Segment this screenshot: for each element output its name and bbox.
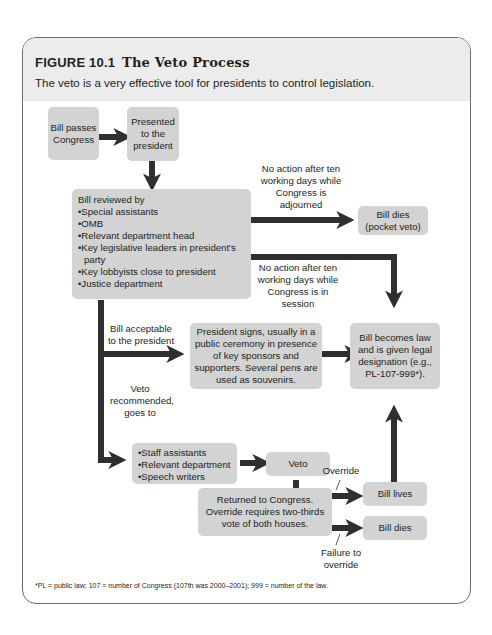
staff-list: Staff assistants Relevant department Spe… — [138, 447, 230, 483]
reviewer-item: Key lobbyists close to president — [78, 266, 236, 278]
node-returned: Returned to Congress. Override requires … — [198, 488, 332, 536]
reviewer-list: Special assistants OMB Relevant departme… — [78, 206, 236, 290]
label-in-session: No action after ten working days while C… — [253, 262, 343, 310]
node-bill-dies: Bill dies — [363, 516, 427, 540]
reviewer-item-continued: party — [78, 254, 236, 266]
node-staff: Staff assistants Relevant department Spe… — [132, 443, 237, 484]
label-override: Override — [316, 465, 366, 477]
reviewer-item: OMB — [78, 218, 236, 230]
label-acceptable: Bill acceptable to the president — [106, 323, 176, 347]
node-becomes-law: Bill becomes law and is given legal desi… — [350, 323, 440, 389]
failure-leader-line — [336, 534, 340, 545]
label-failure: Failure to override — [316, 547, 366, 571]
reviewer-item: Justice department — [78, 278, 236, 290]
node-bill-reviewed: Bill reviewed by Special assistants OMB … — [72, 189, 251, 299]
staff-item: Speech writers — [138, 471, 230, 483]
node-pocket-veto: Bill dies (pocket veto) — [358, 206, 428, 235]
staff-item: Staff assistants — [138, 447, 230, 459]
reviewer-item: Relevant department head — [78, 230, 236, 242]
reviewed-title: Bill reviewed by — [78, 194, 236, 206]
label-veto-recommended: Veto recommended, goes to — [110, 383, 170, 419]
override-leader-line — [336, 480, 340, 490]
label-adjourned: No action after ten working days while C… — [256, 163, 346, 211]
node-presented: Presented to the president — [127, 107, 179, 161]
node-bill-lives: Bill lives — [363, 482, 427, 506]
reviewer-item: Special assistants — [78, 206, 236, 218]
staff-item: Relevant department — [138, 459, 230, 471]
node-president-signs: President signs, usually in a public cer… — [190, 323, 322, 389]
node-bill-passes: Bill passes Congress — [48, 107, 99, 160]
reviewer-item: Key legislative leaders in president's — [78, 242, 236, 254]
